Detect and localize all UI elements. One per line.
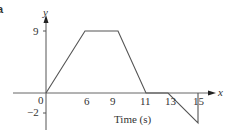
x-tick-label-15: 15 xyxy=(193,95,205,107)
chart: a y x 9 0 −2 6 9 11 13 15 Time (s) xyxy=(0,0,226,131)
y-tick-label-9: 9 xyxy=(33,25,39,37)
x-tick-label-11: 11 xyxy=(140,95,151,107)
y-tick-label-neg2: −2 xyxy=(27,106,39,118)
x-axis-arrow-icon xyxy=(208,91,216,96)
x-tick-label-13: 13 xyxy=(165,95,177,107)
x-tick-label-6: 6 xyxy=(84,95,90,107)
y-axis-label: y xyxy=(42,6,48,18)
origin-label: 0 xyxy=(38,94,44,106)
panel-label: a xyxy=(0,3,4,15)
data-line xyxy=(46,31,198,123)
x-axis-label: x xyxy=(217,86,223,98)
time-axis-title: Time (s) xyxy=(114,113,152,126)
x-tick-label-9: 9 xyxy=(110,95,116,107)
